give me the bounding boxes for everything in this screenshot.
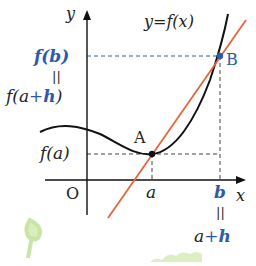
equals-vertical-bottom: ||: [216, 206, 225, 219]
f-a-plus-h-label: f(a+h): [6, 88, 62, 105]
decoration-leaf-icon: [26, 220, 40, 258]
equals-vertical-top: ||: [52, 70, 61, 83]
fah-prefix: f(a: [6, 86, 29, 106]
b-tick-label: b: [214, 184, 226, 201]
y-axis-label: y: [66, 6, 75, 22]
x-axis-arrow-icon: [236, 176, 246, 184]
ah-plus: +: [204, 226, 218, 246]
fah-h: h: [43, 86, 55, 106]
curve-label: y=f(x): [144, 14, 194, 30]
decoration-grass-icon: [150, 252, 202, 262]
point-b-marker: [217, 53, 223, 59]
a-plus-h-label: a+h: [194, 228, 231, 245]
point-a-marker: [149, 151, 155, 157]
point-a-label: A: [134, 130, 146, 146]
y-axis-arrow-icon: [83, 10, 91, 20]
ah-h: h: [218, 226, 230, 246]
a-tick-label: a: [146, 184, 156, 201]
fb-label: f(b): [34, 48, 69, 65]
x-axis-label: x: [236, 188, 245, 204]
fa-label: f(a): [40, 145, 70, 162]
point-b-label: B: [226, 52, 238, 68]
origin-label: O: [66, 186, 79, 202]
fah-suffix: ): [56, 86, 63, 106]
ah-a: a: [194, 226, 204, 246]
fah-plus: +: [29, 86, 43, 106]
